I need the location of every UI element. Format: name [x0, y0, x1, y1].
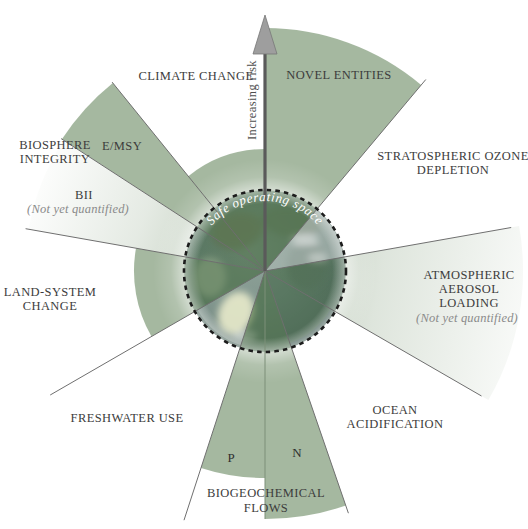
- label-biosphere-line1: BIOSPHERE: [19, 138, 91, 152]
- label-phosphorus: P: [227, 450, 234, 465]
- label-biogeochemical-line1: BIOGEOCHEMICAL: [207, 486, 325, 500]
- label-bii-note: (Not yet quantified): [27, 202, 129, 216]
- label-aerosol-line1: ATMOSPHERIC: [423, 268, 514, 282]
- label-land-system-line1: LAND-SYSTEM: [4, 285, 97, 299]
- label-freshwater-use: FRESHWATER USE: [71, 411, 184, 425]
- label-novel-entities: NOVEL ENTITIES: [286, 68, 391, 82]
- label-biogeochemical-line2: FLOWS: [244, 501, 288, 515]
- label-aerosol-line3: LOADING: [439, 296, 499, 310]
- label-emsy: E/MSY: [102, 139, 142, 153]
- label-ozone-line1: STRATOSPHERIC OZONE: [377, 149, 528, 163]
- planetary-boundaries-diagram: Safe operating space Increasing risk CLI…: [0, 0, 528, 529]
- label-bii: BII: [75, 188, 93, 202]
- label-climate-change: CLIMATE CHANGE: [139, 69, 254, 83]
- label-ocean-line1: OCEAN: [372, 403, 417, 417]
- label-biosphere-line2: INTEGRITY: [20, 152, 90, 166]
- label-ocean-line2: ACIDIFICATION: [347, 417, 444, 431]
- label-aerosol-line2: AEROSOL: [439, 282, 499, 296]
- label-aerosol-note: (Not yet quantified): [416, 311, 518, 325]
- label-ozone-line2: DEPLETION: [417, 163, 489, 177]
- label-land-system-line2: CHANGE: [23, 299, 77, 313]
- label-nitrogen: N: [292, 445, 302, 460]
